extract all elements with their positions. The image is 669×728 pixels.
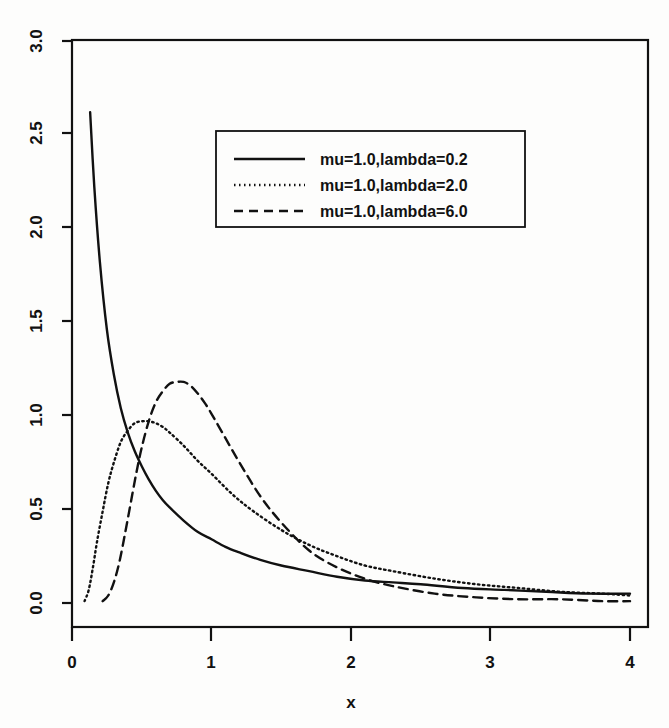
chart-page: 0.0 0.5 1.0 1.5 2.0 2.5 3.0 0 1 2 3 4 x <box>0 0 669 728</box>
y-tick-label: 3.0 <box>27 29 46 53</box>
x-tick-label: 0 <box>67 653 76 672</box>
y-tick-label: 0.5 <box>27 497 46 521</box>
legend-label-0: mu=1.0,lambda=0.2 <box>320 151 468 168</box>
y-tick-label: 2.0 <box>27 215 46 239</box>
x-tick-label: 4 <box>625 653 635 672</box>
y-tick-label: 0.0 <box>27 591 46 615</box>
legend: mu=1.0,lambda=0.2 mu=1.0,lambda=2.0 mu=1… <box>216 131 525 227</box>
y-tick-label: 1.5 <box>27 309 46 333</box>
legend-label-1: mu=1.0,lambda=2.0 <box>320 177 468 194</box>
plot-background <box>0 0 669 728</box>
x-tick-label: 1 <box>206 653 215 672</box>
inverse-gaussian-density-plot: 0.0 0.5 1.0 1.5 2.0 2.5 3.0 0 1 2 3 4 x <box>0 0 669 728</box>
y-tick-label: 2.5 <box>27 121 46 145</box>
x-tick-label: 2 <box>346 653 355 672</box>
x-axis-title: x <box>346 693 356 712</box>
x-tick-label: 3 <box>485 653 494 672</box>
legend-label-2: mu=1.0,lambda=6.0 <box>320 203 468 220</box>
y-tick-label: 1.0 <box>27 403 46 427</box>
